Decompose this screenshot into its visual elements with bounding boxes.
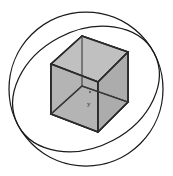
sphere-center-point xyxy=(89,91,91,93)
cube-in-sphere-diagram: y xyxy=(0,0,173,176)
center-point-label: y xyxy=(87,100,91,108)
figure-canvas: y xyxy=(0,0,173,176)
